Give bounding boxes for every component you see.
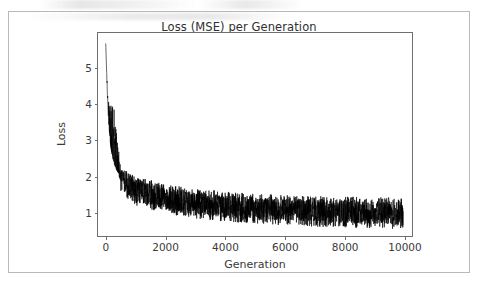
y-tick-mark (95, 140, 99, 141)
x-tick-label: 10000 (388, 241, 421, 253)
x-tick-mark (225, 236, 226, 240)
y-tick-label: 2 (85, 171, 92, 183)
x-tick-label: 2000 (152, 241, 179, 253)
x-axis-label: Generation (97, 258, 413, 271)
y-tick-mark (95, 68, 99, 69)
y-tick-mark (95, 213, 99, 214)
x-tick-label: 6000 (272, 241, 299, 253)
scan-artifact-card (29, 13, 289, 20)
y-tick-label: 3 (85, 134, 92, 146)
x-tick-label: 4000 (212, 241, 239, 253)
x-tick-mark (166, 236, 167, 240)
x-tick-mark (345, 236, 346, 240)
scan-artifact-top (40, 0, 370, 9)
x-tick-label: 0 (102, 241, 109, 253)
y-axis-label: Loss (55, 122, 68, 146)
loss-curve-plot (98, 33, 412, 236)
figure-card: Loss (MSE) per Generation Loss Generatio… (8, 11, 470, 273)
y-tick-mark (95, 177, 99, 178)
y-tick-label: 4 (85, 98, 92, 110)
page-root: Loss (MSE) per Generation Loss Generatio… (0, 0, 483, 284)
x-tick-mark (106, 236, 107, 240)
x-tick-mark (405, 236, 406, 240)
y-tick-label: 1 (85, 207, 92, 219)
loss-series-line (106, 44, 403, 229)
y-tick-label: 5 (85, 62, 92, 74)
y-tick-mark (95, 104, 99, 105)
x-tick-mark (285, 236, 286, 240)
x-tick-label: 8000 (332, 241, 359, 253)
plot-axes: 123450200040006000800010000 (97, 32, 413, 237)
